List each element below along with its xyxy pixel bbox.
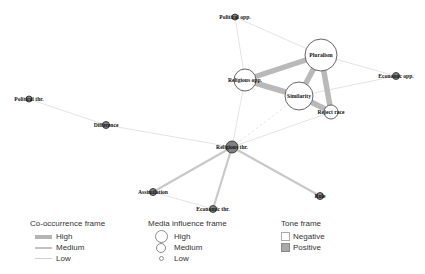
legend-media-influence: Media influence frame High Medium Low <box>148 219 227 264</box>
legend-cooccurrence-low: Low <box>30 253 105 264</box>
edge-religious_thr-rule <box>232 147 320 196</box>
line-weight-low-icon <box>35 258 52 259</box>
legend-tone-title: Tone frame <box>281 219 325 228</box>
legend-tone: Tone frame Negative Positive <box>281 219 325 253</box>
node-label-assimilation: Assimilation <box>138 189 169 195</box>
node-label-religious_opp: Religious opp. <box>228 77 262 83</box>
node-label-rule: Rule <box>314 193 326 199</box>
legend: Co-occurrence frame High Medium Low Medi… <box>0 219 425 274</box>
legend-cooccurrence-title: Co-occurrence frame <box>30 219 105 228</box>
tone-positive-icon <box>281 243 290 252</box>
legend-media-medium: Medium <box>148 242 227 253</box>
network-canvas: Political opp.PluralismReligious opp.Eco… <box>0 0 425 219</box>
edge-similarity-economic_opp <box>299 76 396 96</box>
legend-label: Negative <box>293 232 325 241</box>
node-label-political_opp: Political opp. <box>219 14 251 20</box>
legend-label: Low <box>174 254 189 263</box>
node-label-political_thr: Political thr. <box>14 96 44 102</box>
legend-tone-negative: Negative <box>281 231 325 242</box>
node-label-religious_thr: Religious thr. <box>216 144 248 150</box>
node-label-similarity: Similarity <box>287 93 311 99</box>
node-size-high-icon <box>155 230 168 243</box>
node-label-economic_opp: Economic opp. <box>378 73 414 79</box>
legend-media-low: Low <box>148 253 227 264</box>
legend-tone-positive: Positive <box>281 242 325 253</box>
legend-label: Medium <box>174 243 202 252</box>
legend-label: Positive <box>293 243 321 252</box>
node-size-medium-icon <box>156 243 166 253</box>
legend-label: Low <box>56 254 71 263</box>
node-label-difference: Difference <box>94 122 119 128</box>
legend-media-influence-title: Media influence frame <box>148 219 227 228</box>
network-figure: Political opp.PluralismReligious opp.Eco… <box>0 0 425 274</box>
node-size-low-icon <box>159 256 164 261</box>
legend-cooccurrence-high: High <box>30 231 105 242</box>
legend-label: High <box>174 232 190 241</box>
edge-religious_thr-reject_race <box>232 112 331 147</box>
node-label-pluralism: Pluralism <box>309 52 333 58</box>
legend-label: High <box>56 232 72 241</box>
tone-negative-icon <box>281 232 290 241</box>
legend-media-high: High <box>148 231 227 242</box>
line-weight-medium-icon <box>35 247 52 249</box>
line-weight-high-icon <box>35 235 52 239</box>
legend-cooccurrence-medium: Medium <box>30 242 105 253</box>
edge-difference-religious_thr <box>106 125 232 147</box>
legend-cooccurrence: Co-occurrence frame High Medium Low <box>30 219 105 264</box>
node-label-economic_thr: Economic thr. <box>196 206 230 212</box>
legend-label: Medium <box>56 243 84 252</box>
node-label-reject_race: Reject race <box>318 109 345 115</box>
